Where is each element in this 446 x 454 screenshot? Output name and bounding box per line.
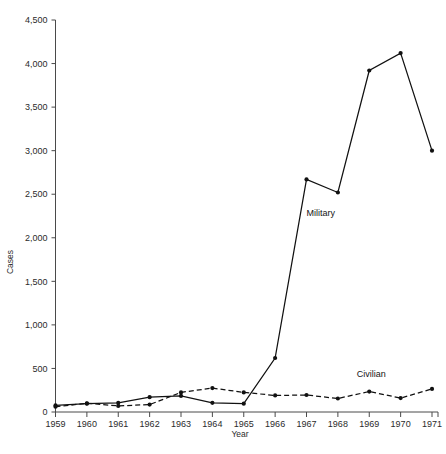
y-tick-label: 1,000: [25, 320, 48, 330]
x-tick-label: 1962: [140, 419, 160, 429]
data-point-civilian-1964: [210, 386, 214, 390]
line-chart: 05001,0001,5002,0002,5003,0003,5004,0004…: [0, 0, 446, 454]
data-point-military-1971: [430, 149, 434, 153]
data-point-civilian-1962: [148, 403, 152, 407]
data-point-civilian-1968: [336, 396, 340, 400]
data-point-military-1964: [210, 401, 214, 405]
series-annotation-military: Military: [307, 208, 336, 218]
data-point-military-1968: [336, 190, 340, 194]
x-tick-label: 1960: [77, 419, 97, 429]
series-annotation-civilian: Civilian: [357, 369, 386, 379]
x-tick-label: 1969: [359, 419, 379, 429]
annotation-layer: MilitaryCivilian: [307, 208, 386, 379]
y-tick-label: 0: [42, 407, 47, 417]
y-tick-label: 4,000: [25, 59, 48, 69]
x-tick-label: 1964: [202, 419, 222, 429]
x-tick-label: 1970: [391, 419, 411, 429]
data-point-civilian-1971: [430, 387, 434, 391]
chart-container: 05001,0001,5002,0002,5003,0003,5004,0004…: [0, 0, 446, 454]
y-tick-label: 2,500: [25, 189, 48, 199]
y-tick-label: 3,000: [25, 146, 48, 156]
data-point-military-1962: [148, 395, 152, 399]
y-tick-label: 1,500: [25, 277, 48, 287]
x-tick-label: 1966: [265, 419, 285, 429]
x-tick-label: 1968: [328, 419, 348, 429]
x-tick-label: 1971: [422, 419, 442, 429]
data-point-civilian-1960: [85, 401, 89, 405]
y-tick-label: 3,500: [25, 102, 48, 112]
data-point-military-1966: [273, 356, 277, 360]
data-point-civilian-1965: [242, 390, 246, 394]
x-tick-label: 1961: [108, 419, 128, 429]
data-point-civilian-1966: [273, 393, 277, 397]
x-tick-label: 1965: [234, 419, 254, 429]
data-point-military-1970: [399, 51, 403, 55]
x-tick-label: 1967: [296, 419, 316, 429]
data-point-civilian-1970: [399, 396, 403, 400]
data-point-civilian-1969: [367, 389, 371, 393]
x-axis: 1959196019611962196319641965196619671968…: [45, 412, 442, 429]
x-tick-label: 1959: [45, 419, 65, 429]
y-tick-label: 2,000: [25, 233, 48, 243]
x-tick-label: 1963: [171, 419, 191, 429]
y-tick-label: 500: [32, 364, 47, 374]
y-axis-title: Cases: [5, 250, 15, 274]
data-point-civilian-1963: [179, 390, 183, 394]
series-layer: [53, 51, 434, 409]
y-axis: 05001,0001,5002,0002,5003,0003,5004,0004…: [25, 15, 56, 417]
x-axis-title: Year: [231, 429, 248, 439]
series-line-military: [56, 53, 433, 405]
y-tick-label: 4,500: [25, 15, 48, 25]
data-point-military-1965: [242, 402, 246, 406]
data-point-civilian-1961: [116, 404, 120, 408]
data-point-civilian-1959: [53, 405, 57, 409]
data-point-military-1969: [367, 68, 371, 72]
data-point-military-1967: [304, 177, 308, 181]
data-point-civilian-1967: [304, 393, 308, 397]
